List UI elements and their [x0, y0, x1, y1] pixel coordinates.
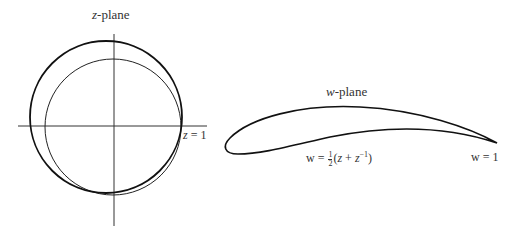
z-plane-title-suffix: -plane — [97, 7, 129, 22]
map-plus: + — [342, 151, 355, 165]
map-frac-den: 2 — [328, 160, 332, 168]
map-exp: −1 — [360, 150, 369, 159]
diagram-canvas — [0, 0, 513, 232]
w-plane-title: w-plane — [326, 84, 367, 100]
z-plane-title: z-plane — [92, 7, 130, 23]
w-equals-one-label: w = 1 — [471, 150, 498, 165]
joukowski-map-label: w = 12(z + z−1) — [306, 150, 372, 168]
map-half-fraction: 12 — [328, 151, 332, 168]
z-plane-offset-circle — [30, 41, 182, 193]
w-plane-airfoil — [225, 107, 497, 154]
w-plane-title-var: w — [326, 84, 335, 99]
z-equals-one-label: z = 1 — [183, 128, 206, 143]
z-label-eq: = 1 — [188, 128, 207, 142]
w-plane-title-suffix: -plane — [335, 84, 367, 99]
z-plane-unit-circle — [45, 59, 181, 195]
map-lhs: w = — [306, 151, 327, 165]
map-close: ) — [368, 151, 372, 165]
